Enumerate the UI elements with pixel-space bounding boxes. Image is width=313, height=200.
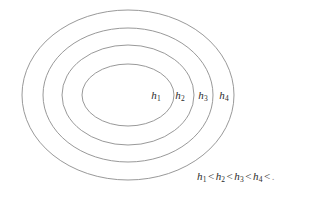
inequality-relation-trailing: <: [262, 170, 271, 182]
inequality-relation-1: <: [206, 170, 215, 182]
inequality-relation-2: <: [225, 170, 234, 182]
contour-label-h1-sub: 1: [157, 94, 161, 103]
contour-label-h2-base: h: [175, 89, 181, 101]
ordering-inequality: h1<h2<h3<h4<.: [197, 171, 274, 184]
contour-diagram: h1 h2 h3 h4 h1<h2<h3<h4<.: [0, 0, 313, 200]
inequality-term-1: h: [197, 170, 203, 182]
inequality-relation-3: <: [244, 170, 253, 182]
contour-label-h1-base: h: [151, 89, 157, 101]
inequality-term-3: h: [234, 170, 240, 182]
contour-label-h3: h3: [198, 90, 207, 103]
contour-label-h4-base: h: [219, 89, 225, 101]
contour-label-h2: h2: [175, 90, 184, 103]
contour-label-h1: h1: [151, 90, 160, 103]
contour-label-h3-base: h: [198, 89, 204, 101]
contour-label-h2-sub: 2: [181, 94, 185, 103]
contour-label-h4-sub: 4: [225, 94, 229, 103]
contour-label-h4: h4: [219, 90, 228, 103]
inequality-trailing-mark: .: [272, 170, 275, 182]
contour-ellipse-h3: [43, 28, 213, 162]
contour-label-h3-sub: 3: [204, 94, 208, 103]
